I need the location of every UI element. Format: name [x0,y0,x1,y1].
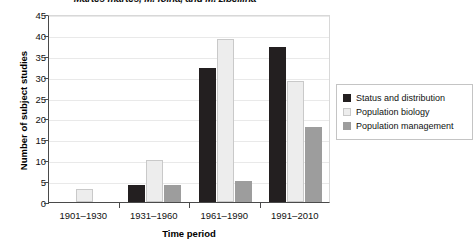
y-tick-label: 5 [0,177,46,188]
gridline [49,79,329,80]
bar [164,185,181,202]
legend-swatch-icon [343,108,351,116]
legend-item: Population management [343,119,467,133]
legend-label: Status and distribution [356,93,445,103]
x-tick-mark [260,203,261,208]
y-tick-label: 40 [0,30,46,41]
legend-swatch-icon [343,94,351,102]
y-tick-label: 15 [0,135,46,146]
y-tick-label: 45 [0,10,46,21]
bar [217,39,234,202]
legend-label: Population management [356,121,454,131]
legend-item: Population biology [343,105,467,119]
y-tick-label: 35 [0,51,46,62]
gridline [49,37,329,38]
bar [128,185,145,202]
y-tick-label: 20 [0,114,46,125]
legend-swatch-icon [343,122,351,130]
bar [76,189,93,202]
gridline [49,58,329,59]
bar [269,47,286,202]
chart-legend: Status and distributionPopulation biolog… [336,84,473,140]
x-tick-mark [119,203,120,208]
bar [146,160,163,202]
bar-chart-figure: Martes martes, M. foina, and M. zibellin… [0,0,474,247]
gridline [49,16,329,17]
legend-label: Population biology [356,107,430,117]
chart-title: Martes martes, M. foina, and M. zibellin… [0,0,330,4]
y-tick-mark [44,203,49,204]
bar [305,127,322,202]
y-tick-label: 10 [0,156,46,167]
bar [199,68,216,202]
legend-item: Status and distribution [343,91,467,105]
x-tick-mark [189,203,190,208]
x-axis-title: Time period [48,228,330,239]
y-tick-label: 30 [0,72,46,83]
bar [235,181,252,202]
x-tick-label: 1991–2010 [250,210,340,221]
y-tick-label: 25 [0,93,46,104]
y-tick-label: 0 [0,198,46,209]
bar [287,81,304,202]
plot-area [48,15,330,203]
